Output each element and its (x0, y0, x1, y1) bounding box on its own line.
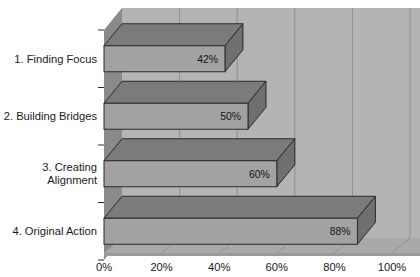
category-label: Alignment (47, 174, 98, 186)
x-tick-label: 80% (323, 261, 345, 273)
bar-top-face (104, 24, 243, 46)
bar (104, 24, 243, 72)
chart-canvas: 42%50%60%88% 1. Finding Focus2. Building… (0, 0, 420, 277)
bar-value-label: 42% (197, 54, 218, 65)
bar-front-face (104, 218, 357, 244)
category-label: 1. Finding Focus (14, 53, 97, 65)
x-tick-label: 0% (96, 261, 112, 273)
bar-value-label: 88% (330, 226, 351, 237)
bar-top-face (104, 81, 266, 103)
bar-top-face (104, 139, 295, 161)
floor-front-edge (104, 253, 420, 256)
category-axis-labels: 1. Finding Focus2. Building Bridges3. Cr… (4, 53, 98, 238)
category-axis-ticks (98, 30, 104, 260)
x-tick-label: 40% (208, 261, 230, 273)
bar-value-label: 60% (249, 169, 270, 180)
bar-top-face (104, 196, 375, 218)
bar-value-label: 50% (220, 111, 241, 122)
bar-chart-3d: 42%50%60%88% 1. Finding Focus2. Building… (0, 0, 420, 277)
bar (104, 81, 266, 129)
category-label: 2. Building Bridges (4, 110, 98, 122)
value-axis-tick-labels: 0%20%40%60%80%100% (96, 261, 406, 273)
x-tick-label: 60% (266, 261, 288, 273)
category-label: 3. Creating (42, 161, 97, 173)
category-label: 4. Original Action (12, 225, 97, 237)
x-tick-label: 100% (378, 261, 407, 273)
x-tick-label: 20% (150, 261, 172, 273)
